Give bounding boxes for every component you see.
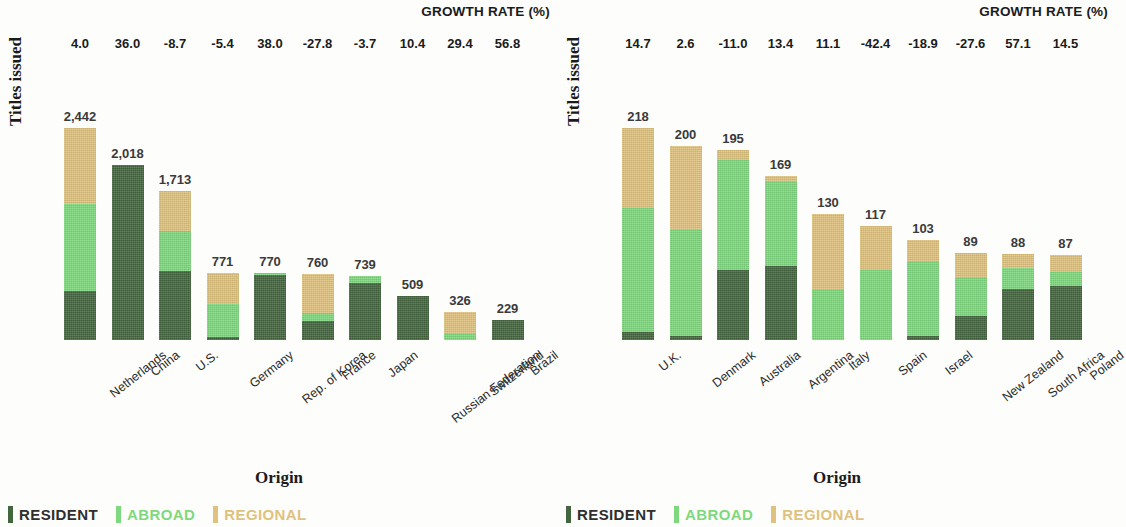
chart-panel-right: GROWTH RATE (%) 14.72.6-11.013.411.1-42.… (558, 0, 1116, 527)
legend-label: REGIONAL (224, 506, 306, 523)
legend-right: RESIDENTABROADREGIONAL (566, 506, 865, 523)
y-axis-title-left: Titles issued (6, 37, 26, 126)
bar-segment-resident (765, 266, 797, 340)
bar-segment-regional (717, 150, 749, 160)
bar-segment-resident (112, 165, 144, 340)
legend-swatch-regional-icon (213, 506, 218, 523)
bar-value-label: 771 (212, 254, 234, 269)
bar-segment-regional (159, 191, 191, 230)
legend-item-regional[interactable]: REGIONAL (771, 506, 864, 523)
plot-area-left: 2,4422,0181,713771770760739509326229 (0, 0, 558, 340)
bar-value-label: 195 (722, 131, 744, 146)
bar-israel[interactable] (907, 240, 939, 340)
chart-panel-left: GROWTH RATE (%) 4.036.0-8.7-5.438.0-27.8… (0, 0, 558, 527)
bar-segment-resident (349, 283, 381, 340)
bar-segment-regional (670, 146, 702, 230)
x-axis-title-left: Origin (0, 468, 558, 488)
legend-label: ABROAD (127, 506, 195, 523)
legend-item-resident[interactable]: RESIDENT (8, 506, 98, 523)
legend-item-resident[interactable]: RESIDENT (566, 506, 656, 523)
bar-value-label: 770 (259, 254, 281, 269)
legend-label: RESIDENT (19, 506, 98, 523)
bar-segment-regional (1050, 255, 1082, 272)
y-axis-title-right: Titles issued (564, 37, 584, 126)
x-axis-label: Australia (756, 348, 803, 389)
bar-denmark[interactable] (670, 146, 702, 340)
bar-rep-of-korea[interactable] (254, 273, 286, 340)
bar-segment-resident (159, 271, 191, 340)
legend-swatch-regional-icon (771, 506, 776, 523)
bar-segment-abroad (812, 289, 844, 340)
legend-item-abroad[interactable]: ABROAD (116, 506, 195, 523)
x-axis-label: U.K. (656, 348, 684, 374)
bar-segment-resident (207, 337, 239, 340)
bar-poland[interactable] (1050, 255, 1082, 340)
bar-italy[interactable] (812, 214, 844, 340)
bar-germany[interactable] (207, 273, 239, 340)
bar-segment-abroad (860, 270, 892, 340)
bar-segment-resident (717, 270, 749, 340)
bar-value-label: 1,713 (159, 172, 192, 187)
bar-value-label: 169 (770, 157, 792, 172)
bar-segment-abroad (1050, 272, 1082, 286)
bar-brazil[interactable] (492, 320, 524, 340)
bar-segment-abroad (955, 277, 987, 316)
bar-netherlands[interactable] (64, 128, 96, 340)
bar-argentina[interactable] (765, 176, 797, 340)
bar-value-label: 103 (912, 221, 934, 236)
bar-new-zealand[interactable] (955, 253, 987, 340)
bar-segment-regional (955, 253, 987, 276)
bar-segment-regional (302, 274, 334, 313)
bar-segment-resident (64, 291, 96, 340)
bar-japan[interactable] (349, 276, 381, 340)
bar-segment-abroad (907, 261, 939, 336)
bar-value-label: 88 (1011, 235, 1025, 250)
bar-segment-regional (444, 312, 476, 333)
bar-segment-abroad (159, 231, 191, 272)
bar-value-label: 509 (402, 277, 424, 292)
bar-south-africa[interactable] (1002, 254, 1034, 340)
bar-value-label: 218 (627, 109, 649, 124)
bar-segment-resident (1002, 289, 1034, 340)
bar-value-label: 760 (307, 255, 329, 270)
bar-segment-abroad (349, 276, 381, 283)
bar-segment-resident (254, 275, 286, 340)
bar-switzerland[interactable] (444, 312, 476, 340)
legend-label: RESIDENT (577, 506, 656, 523)
x-axis-label: Germany (246, 348, 295, 391)
bar-segment-resident (670, 336, 702, 340)
x-axis-label: Japan (385, 348, 420, 380)
bar-australia[interactable] (717, 150, 749, 340)
bar-segment-abroad (765, 181, 797, 267)
bar-france[interactable] (302, 274, 334, 340)
x-axis-title-right: Origin (558, 468, 1116, 488)
bar-segment-resident (907, 336, 939, 340)
bar-segment-abroad (717, 160, 749, 270)
bar-value-label: 326 (449, 293, 471, 308)
legend-swatch-abroad-icon (674, 506, 679, 523)
bar-segment-regional (207, 273, 239, 303)
bar-russian-federation[interactable] (397, 296, 429, 340)
bar-segment-abroad (64, 204, 96, 291)
legend-swatch-abroad-icon (116, 506, 121, 523)
bar-segment-abroad (444, 333, 476, 340)
bar-segment-abroad (302, 313, 334, 322)
bar-segment-resident (622, 332, 654, 340)
legend-swatch-resident-icon (566, 506, 571, 523)
legend-item-regional[interactable]: REGIONAL (213, 506, 306, 523)
bar-value-label: 89 (963, 234, 977, 249)
bar-value-label: 2,018 (111, 146, 144, 161)
bar-value-label: 739 (354, 257, 376, 272)
bar-segment-regional (622, 128, 654, 208)
bar-segment-resident (302, 321, 334, 340)
bar-u-k[interactable] (622, 128, 654, 340)
bar-segment-abroad (670, 229, 702, 336)
legend-item-abroad[interactable]: ABROAD (674, 506, 753, 523)
bar-china[interactable] (112, 165, 144, 340)
bar-segment-abroad (622, 208, 654, 332)
bar-u-s[interactable] (159, 191, 191, 340)
bar-value-label: 117 (865, 207, 886, 222)
legend-label: REGIONAL (782, 506, 864, 523)
x-axis-label: U.S. (193, 348, 221, 374)
bar-spain[interactable] (860, 226, 892, 340)
